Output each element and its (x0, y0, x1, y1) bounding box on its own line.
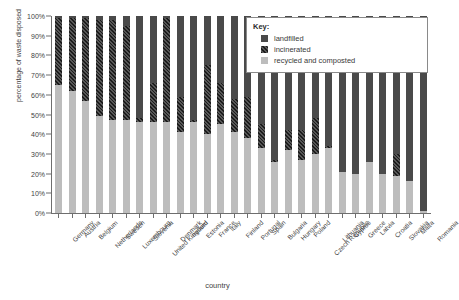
bar-segment-recycled (190, 122, 197, 213)
bar-segment-incinerated (298, 130, 305, 160)
bar-segment-incinerated (285, 130, 292, 150)
y-tick-label: 0% (7, 210, 45, 217)
bar-segment-recycled (69, 91, 76, 213)
x-tick-mark (420, 213, 427, 218)
x-tick-mark (298, 213, 305, 218)
x-tick-mark (177, 213, 184, 218)
bar-segment-recycled (393, 176, 400, 213)
bar-segment-recycled (312, 154, 319, 213)
x-tick-mark (163, 213, 170, 218)
y-tick-label: 20% (7, 170, 45, 177)
y-tick-label: 10% (7, 190, 45, 197)
x-tick-mark (217, 213, 224, 218)
bar-segment-landfilled (231, 16, 238, 99)
bar-segment-recycled (123, 120, 130, 213)
bar-segment-recycled (285, 150, 292, 213)
bar-segment-recycled (366, 162, 373, 213)
bar-segment-incinerated (55, 18, 62, 85)
legend-swatch-incinerated (261, 46, 268, 53)
bar-segment-landfilled (177, 16, 184, 97)
bar-segment-landfilled (123, 16, 130, 26)
bar-segment-recycled (406, 181, 413, 213)
bar-segment-incinerated (82, 18, 89, 101)
bar-column (150, 16, 157, 213)
x-axis-title: country (0, 281, 435, 290)
x-tick-mark (258, 213, 265, 218)
x-tick-mark (69, 213, 76, 218)
x-tick-mark (231, 213, 238, 218)
bar-segment-incinerated (231, 99, 238, 132)
legend-swatch-recycled (261, 57, 268, 64)
x-tick-mark (271, 213, 278, 218)
bar-column (190, 16, 197, 213)
bar-segment-landfilled (190, 16, 197, 120)
legend-label-landfilled: landfilled (274, 34, 304, 43)
y-tick-label: 100% (7, 13, 45, 20)
bar-segment-recycled (136, 122, 143, 213)
bar-segment-recycled (379, 174, 386, 213)
bar-column (82, 16, 89, 213)
bar-segment-incinerated (177, 97, 184, 132)
legend-item-recycled: recycled and composted (261, 56, 421, 65)
bar-segment-incinerated (312, 118, 319, 153)
bar-segment-recycled (109, 120, 116, 213)
bar-column (55, 16, 62, 213)
bar-segment-recycled (325, 148, 332, 213)
legend-label-incinerated: incinerated (274, 45, 311, 54)
x-tick-label: Romania (435, 219, 459, 243)
bar-segment-incinerated (109, 20, 116, 120)
bar-segment-recycled (150, 122, 157, 213)
bar-segment-landfilled (136, 16, 143, 118)
y-tick-label: 60% (7, 91, 45, 98)
bar-segment-incinerated (96, 20, 103, 117)
legend-item-landfilled: landfilled (261, 34, 421, 43)
bar-column (163, 16, 170, 213)
bar-segment-incinerated (163, 18, 170, 122)
bar-column (109, 16, 116, 213)
bar-segment-recycled (298, 160, 305, 213)
x-tick-mark (366, 213, 373, 218)
bar-segment-incinerated (123, 26, 130, 121)
bar-segment-incinerated (244, 97, 251, 138)
x-tick-mark (136, 213, 143, 218)
bar-segment-incinerated (258, 124, 265, 148)
bar-column (136, 16, 143, 213)
bar-column (69, 16, 76, 213)
y-tick-label: 90% (7, 32, 45, 39)
bar-column (231, 16, 238, 213)
x-tick-mark (244, 213, 251, 218)
bar-segment-recycled (163, 122, 170, 213)
bar-segment-recycled (258, 148, 265, 213)
bar-column (217, 16, 224, 213)
x-tick-mark (352, 213, 359, 218)
legend-swatch-landfilled (261, 35, 268, 42)
legend-label-recycled: recycled and composted (274, 56, 355, 65)
x-tick-mark (406, 213, 413, 218)
bar-segment-recycled (204, 134, 211, 213)
bar-segment-recycled (271, 162, 278, 213)
bar-segment-incinerated (150, 83, 157, 122)
bar-column (96, 16, 103, 213)
bar-segment-recycled (96, 116, 103, 213)
bar-segment-incinerated (204, 65, 211, 134)
x-tick-mark (204, 213, 211, 218)
x-tick-mark (312, 213, 319, 218)
x-tick-mark (55, 213, 62, 218)
bar-segment-recycled (339, 172, 346, 213)
bar-segment-recycled (231, 132, 238, 213)
x-axis-tick-marks (51, 213, 430, 218)
y-tick-label: 70% (7, 72, 45, 79)
x-tick-mark (82, 213, 89, 218)
legend-item-incinerated: incinerated (261, 45, 421, 54)
x-axis-tick-labels: GermanyAustriaBelgiumNetherlandsSwedenLu… (51, 219, 430, 279)
bar-segment-recycled (244, 138, 251, 213)
y-tick-label: 80% (7, 52, 45, 59)
x-tick-mark (123, 213, 130, 218)
bar-segment-recycled (352, 174, 359, 213)
bar-segment-recycled (55, 85, 62, 213)
bar-column (123, 16, 130, 213)
x-tick-mark (96, 213, 103, 218)
x-tick-mark (150, 213, 157, 218)
bar-segment-recycled (217, 124, 224, 213)
